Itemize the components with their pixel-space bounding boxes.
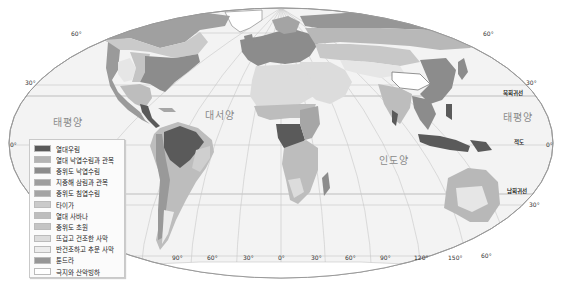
lat-label-60s-right: 60° xyxy=(481,253,492,259)
legend-item: 열대우림 xyxy=(34,143,124,154)
legend: 열대우림 열대 낙엽수림과 관목 중위도 낙엽수림 지중해 삼림과 관목 중위도… xyxy=(29,139,125,278)
legend-item: 열대 낙엽수림과 관목 xyxy=(34,154,124,165)
legend-item: 뜨겁고 건조한 사막 xyxy=(34,233,124,244)
ocean-label-pacific-west: 태평양 xyxy=(53,114,83,129)
legend-item: 열대 사바나 xyxy=(34,210,124,221)
lon-label-60e: 60° xyxy=(345,255,356,261)
equator-label: 적도 xyxy=(514,138,524,146)
lat-label-30s-right: 30° xyxy=(529,202,540,208)
lon-label-90e: 90° xyxy=(380,255,391,261)
legend-swatch xyxy=(34,212,51,219)
antarctica xyxy=(60,262,520,286)
legend-item: 반건조하고 추운 사막 xyxy=(34,244,124,255)
legend-item: 극지와 산악빙하 xyxy=(34,266,124,277)
lat-label-0-right: 0° xyxy=(546,142,553,148)
new-zealand xyxy=(512,214,528,238)
tropic-of-cancer-label: 북회귀선 xyxy=(503,89,523,97)
legend-swatch xyxy=(34,156,51,163)
legend-item: 타이가 xyxy=(34,199,124,210)
lat-label-60n-right: 60° xyxy=(483,31,494,37)
legend-swatch xyxy=(34,179,51,186)
legend-swatch xyxy=(34,145,51,152)
lon-label-150e: 150° xyxy=(448,255,462,261)
lon-label-90w: 90° xyxy=(172,255,183,261)
lat-label-60n-left: 60° xyxy=(71,31,82,37)
tropic-of-capricorn-label: 남회귀선 xyxy=(507,187,527,195)
legend-item: 지중해 삼림과 관목 xyxy=(34,177,124,188)
legend-swatch xyxy=(34,201,51,208)
legend-item: 중위도 침엽수림 xyxy=(34,188,124,199)
legend-swatch xyxy=(34,167,51,174)
legend-swatch xyxy=(34,257,51,264)
lon-label-120e: 120° xyxy=(414,255,428,261)
legend-item: 중위도 초원 xyxy=(34,221,124,232)
legend-swatch xyxy=(34,223,51,230)
ocean-label-indian: 인도양 xyxy=(379,152,409,167)
lon-label-30e: 30° xyxy=(311,255,322,261)
legend-swatch xyxy=(34,235,51,242)
lon-label-0: 0° xyxy=(278,255,285,261)
lat-label-30n-left: 30° xyxy=(25,80,36,86)
lat-label-0-left: 0° xyxy=(10,142,17,148)
ocean-label-pacific-east: 태평양 xyxy=(503,109,533,124)
lat-label-30n-right: 30° xyxy=(526,80,537,86)
legend-item: 중위도 낙엽수림 xyxy=(34,165,124,176)
legend-swatch xyxy=(34,246,51,253)
legend-swatch xyxy=(34,190,51,197)
lon-label-60w: 60° xyxy=(207,255,218,261)
lon-label-30w: 30° xyxy=(243,255,254,261)
africa-north-desert xyxy=(250,64,314,108)
legend-swatch xyxy=(34,268,51,275)
legend-item: 툰드라 xyxy=(34,255,124,266)
ocean-label-atlantic: 대서양 xyxy=(205,107,235,122)
